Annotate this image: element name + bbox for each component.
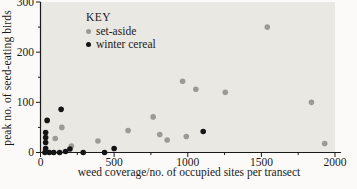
plot-area [41, 2, 336, 153]
set-aside-marker-icon [86, 29, 91, 34]
data-point-set-aside [193, 86, 199, 92]
y-tick-label: 100 [17, 96, 35, 108]
data-point-set-aside [157, 132, 163, 138]
legend: KEY set-aside winter cereal [86, 11, 156, 51]
legend-title: KEY [86, 11, 156, 24]
data-point-winter-cereal [57, 150, 63, 156]
data-point-winter-cereal [200, 129, 206, 135]
data-point-set-aside [322, 141, 328, 147]
data-point-winter-cereal [58, 107, 64, 113]
data-point-set-aside [59, 125, 65, 131]
data-point-winter-cereal [43, 140, 49, 146]
data-point-winter-cereal [80, 150, 86, 156]
data-point-winter-cereal [44, 118, 50, 124]
data-point-winter-cereal [67, 146, 73, 152]
data-point-set-aside [125, 128, 131, 134]
legend-item-winter-cereal: winter cereal [86, 38, 156, 51]
data-point-winter-cereal [111, 146, 117, 152]
y-tick-label: 300 [17, 0, 35, 8]
legend-label-winter-cereal: winter cereal [96, 38, 156, 51]
data-point-winter-cereal [43, 146, 49, 152]
y-axis-title: peak no. of seed-eating birds [1, 2, 13, 154]
legend-label-set-aside: set-aside [96, 25, 136, 38]
data-point-set-aside [183, 134, 189, 140]
y-tick-label: 0 [28, 146, 34, 158]
y-tick-label: 200 [17, 46, 35, 58]
data-point-winter-cereal [51, 150, 57, 156]
data-point-winter-cereal [43, 130, 49, 136]
x-axis-title: weed coverage/no. of occupied sites per … [40, 166, 338, 178]
data-point-winter-cereal [43, 135, 49, 141]
data-point-set-aside [264, 24, 270, 30]
data-point-set-aside [52, 136, 58, 142]
data-point-set-aside [164, 137, 170, 143]
data-point-winter-cereal [102, 150, 108, 156]
scatter-chart-figure: 05001000150020000100200300 peak no. of s… [0, 0, 357, 189]
data-point-set-aside [95, 138, 101, 144]
legend-item-set-aside: set-aside [86, 25, 156, 38]
data-point-set-aside [309, 100, 315, 106]
data-point-set-aside [150, 114, 156, 120]
data-point-set-aside [222, 90, 228, 96]
data-point-set-aside [180, 78, 186, 84]
plot-canvas: 05001000150020000100200300 [0, 0, 357, 189]
winter-cereal-marker-icon [86, 42, 91, 47]
